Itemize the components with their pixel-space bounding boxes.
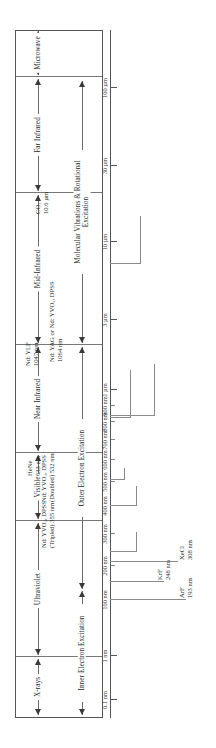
arrow-head-right [35,659,41,665]
band-far-infrared: Far Infrared [16,79,60,191]
axis-tick [111,241,117,242]
process-row: Inner Electron Excitation Outer Electron… [60,31,104,717]
callout-stem [110,263,140,264]
callout-stem [110,599,186,600]
laser-label-ndyvo4-doubled: Nd: YVO₄, DPSS (Doubled) 532 nm [40,453,55,502]
arrow-head-right [35,79,41,85]
band-row: X-rays Ultraviolet Visible [16,31,60,717]
laser-wavelength: (Doubled) 532 nm [48,453,55,502]
axis-tick-label: 300 nm [101,524,108,543]
axis-tick [111,389,117,390]
axis-tick [111,421,115,422]
callout-arm [130,370,131,418]
axis-tick-label: 600 nm [101,450,108,469]
axis-tick-label: 30 µm [101,158,108,175]
callout-arm [136,486,137,506]
process-outer-electron-excitation: Outer Electron Excitation [60,347,104,589]
laser-label-ndyvo4-tripled: Nd: YVO₄, DPSS (Tripled) 355 nm [40,501,55,548]
process-label: Molecular Vibrations & Rotational Excita… [74,150,91,274]
laser-label-arf: ArF 193 nm [178,578,193,598]
laser-label-xecl: XeCl 308 nm [178,540,193,560]
arrow-head-right [79,81,85,87]
laser-wavelength: 10.6 µm [42,192,49,214]
band-label: Near Infrared [34,376,42,422]
arrow-head-left [35,185,41,191]
process-label: Outer Electron Excitation [78,419,86,517]
axis-tick [111,533,115,534]
process-inner-electron-excitation: Inner Electron Excitation [60,591,104,715]
axis-tick [111,459,115,460]
process-label: Inner Electron Excitation [78,604,86,702]
laser-wavelength: 308 nm [186,540,193,560]
band-label: Microwave [34,33,42,73]
process-molecular-vibrations: Molecular Vibrations & Rotational Excita… [60,81,104,343]
band-x-rays: X-rays [16,659,60,715]
laser-name: KrF [156,569,163,580]
axis-tick [111,699,117,700]
callout-arm [154,364,155,416]
laser-label-ndylf: Nd: YLF 1047 nm [24,342,39,366]
axis-tick-label: 3 µm [101,313,108,326]
arrow-head-left [79,337,85,343]
callout-arm [140,216,141,264]
laser-label-co2: CO₂ 10.6 µm [34,192,49,214]
callout-arm [136,532,137,552]
laser-wavelength: 1047 nm [32,343,39,366]
axis-tick [111,319,117,320]
laser-wavelength: 248 nm [164,560,171,580]
laser-label-krf: KrF 248 nm [156,560,171,580]
arrow-head-left [79,583,85,589]
callout-stem [110,505,136,506]
axis-tick-label: 0.1 nm [101,691,108,709]
band-microwave: Microwave [16,31,60,75]
laser-name: ArF [178,587,185,598]
axis-tick [111,87,117,88]
axis-tick-label: 1 nm [101,650,108,663]
axis-tick-label: 100 µm [101,78,108,98]
axis-tick-label: 500 nm [101,472,108,491]
axis-tick-label: 700 nm [101,430,108,449]
axis-tick-label: 10 µm [101,234,108,251]
laser-name: CO₂ [34,203,41,214]
axis-tick [111,405,115,406]
band-label: Far Infrared [34,114,42,156]
spectrum-box: X-rays Ultraviolet Visible [15,30,103,718]
callout-arm [124,468,125,480]
callout-stem [110,479,124,480]
laser-name: Nd: YVO₄, DPSS [40,501,47,548]
wavelength-axis: 0.1 nm 1 nm 100 nm 200 nm 300 nm 400 nm … [110,30,111,718]
callout-stem [110,415,154,416]
laser-name: Nd: YAG or Nd: YVO₄, DPSS [48,281,55,362]
arrow-head-left [79,709,85,715]
axis-tick [111,481,115,482]
axis-tick-label: 1 µm [101,383,108,396]
arrow-head-left [35,649,41,655]
axis-tick [111,439,115,440]
arrow-head-right [79,591,85,597]
axis-tick-label: 200 nm [101,556,108,575]
arrow-head-left [35,709,41,715]
laser-label-hene: HeNe 633 nm [26,456,41,476]
callout-stem [110,417,130,418]
callout-stem [110,551,136,552]
arrow-head-right [79,347,85,353]
laser-wavelength: (Tripled) 355 nm [48,503,55,548]
laser-name: XeCl [178,546,185,560]
callout-stem [110,561,178,562]
callout-stem [110,581,164,582]
rotated-figure-stage: X-rays Ultraviolet Visible [0,0,216,748]
axis-tick [111,655,117,656]
axis-tick-label: 400 nm [101,496,108,515]
arrow-head-left [35,445,41,451]
axis-tick-label: 100 nm [101,590,108,609]
laser-wavelength: 193 nm [186,578,193,598]
laser-name: Nd: YLF [24,342,31,366]
band-label: X-rays [34,674,42,700]
axis-tick-label: 900 nm [101,396,108,415]
spectrum-figure: X-rays Ultraviolet Visible [0,0,216,748]
laser-name: HeNe [26,461,33,476]
laser-label-ndyag: Nd: YAG or Nd: YVO₄, DPSS 1064 nm [48,281,63,362]
laser-wavelength: 1064 nm [56,339,63,362]
band-label: Ultraviolet [34,570,42,608]
axis-tick [111,565,115,566]
